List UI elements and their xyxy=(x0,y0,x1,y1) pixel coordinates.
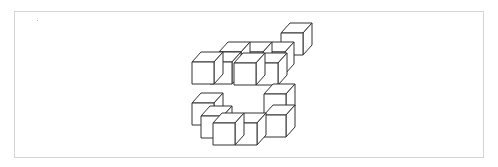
cube xyxy=(264,105,295,137)
cube-front-face xyxy=(213,123,235,145)
cube xyxy=(192,52,223,84)
cube-stack-figure xyxy=(0,0,498,167)
cube-front-face xyxy=(264,115,286,137)
cube xyxy=(234,53,265,85)
cube xyxy=(213,113,244,145)
cube-front-face xyxy=(234,63,256,85)
cube-front-face xyxy=(192,62,214,84)
